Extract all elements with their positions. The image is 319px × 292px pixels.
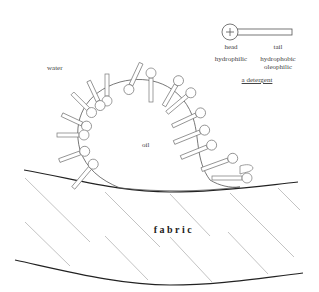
detergent-molecules (57, 61, 253, 191)
water-label: water (47, 65, 63, 72)
diagram-canvas: water oil fabric head tail hydrophilic h… (0, 0, 319, 292)
diagram-svg (0, 0, 319, 292)
legend-tail-property-2: oleophilic (264, 64, 292, 71)
legend-head-property: hydrophilic (215, 56, 247, 63)
fabric-top-edge (24, 170, 298, 192)
legend-molecule (222, 24, 292, 40)
legend-caption: a detergent (242, 77, 273, 84)
legend-tail-property-1: hydrophobic (260, 56, 295, 63)
oil-droplet (78, 79, 240, 190)
fabric-label: fabric (154, 225, 195, 235)
oil-label: oil (142, 142, 149, 149)
fabric-bottom-edge (15, 260, 303, 285)
legend-tail-label: tail (274, 44, 283, 51)
legend-head-label: head (224, 44, 237, 51)
